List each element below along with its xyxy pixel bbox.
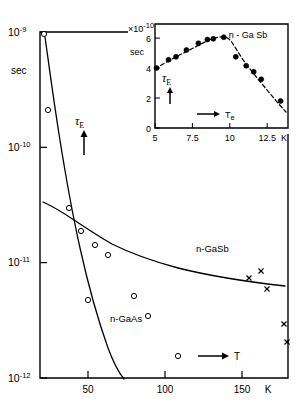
main-tau-subscript: E xyxy=(79,121,84,130)
main-x-tick-labels: 50 100 150 K xyxy=(82,384,271,395)
main-x-axis-title: T xyxy=(234,351,240,362)
data-point-cross xyxy=(265,287,270,292)
inset-y-label-6: 6 xyxy=(146,34,151,44)
data-point-open xyxy=(131,293,136,298)
main-tau-arrow-head xyxy=(81,130,88,137)
inset-y-scale-prefix: ×10 xyxy=(128,24,143,34)
inset-data-point xyxy=(174,54,179,59)
y-label-1e-12-group: 10-12 xyxy=(8,371,31,384)
x-label-50: 50 xyxy=(82,384,94,395)
inset-data-point xyxy=(196,41,201,46)
main-y-tick-labels: 10-9 10-10 10-11 10-12 sec xyxy=(8,25,31,384)
main-x-axis-title-group: T xyxy=(198,351,240,362)
main-tau-e-annotation: τE xyxy=(75,114,88,155)
n-gaas-curve-label: n-GaAs xyxy=(110,313,142,324)
y-label-1e-12-exp: -12 xyxy=(20,371,31,380)
data-point-open xyxy=(92,242,97,247)
inset-x-label-7p5: 7.5 xyxy=(186,133,199,143)
data-point-open xyxy=(145,313,150,318)
x-label-150: 150 xyxy=(234,384,251,395)
inset-y-label-2: 2 xyxy=(146,94,151,104)
figure-container: 10-9 10-10 10-11 10-12 sec 50 100 150 K xyxy=(0,0,305,420)
main-y-ticks xyxy=(40,32,47,378)
inset-data-point xyxy=(184,48,189,53)
inset-data-point xyxy=(166,57,171,62)
y-label-1e-9-group: 10-9 xyxy=(8,25,26,38)
inset-data-point xyxy=(251,69,256,74)
inset-x-label-5: 5 xyxy=(152,133,157,143)
n-gasb-curve-label: n-GaSb xyxy=(196,243,229,254)
inset-data-point xyxy=(154,66,159,71)
inset-data-point xyxy=(221,35,226,40)
n-gaas-curve-path xyxy=(45,37,124,379)
y-label-1e-11-group: 10-11 xyxy=(8,255,30,268)
y-label-1e-11-base: 10 xyxy=(8,256,20,268)
inset-background xyxy=(128,14,293,134)
inset-data-point xyxy=(205,37,210,42)
data-point-cross xyxy=(282,322,287,327)
inset-x-tick-labels: 5 7.5 10 12.5 K xyxy=(152,133,287,143)
data-point-open xyxy=(45,107,50,112)
inset-y-label-4: 4 xyxy=(146,64,151,74)
x-label-100: 100 xyxy=(157,384,174,395)
main-y-axis-title: sec xyxy=(11,65,27,76)
inset-x-axis-unit-kelvin: K xyxy=(281,133,287,143)
y-label-1e-12-base: 10 xyxy=(8,372,20,384)
y-label-1e-11-exp: -11 xyxy=(20,255,30,264)
main-x-ticks xyxy=(88,371,242,378)
data-point-open xyxy=(66,205,71,210)
data-point-open xyxy=(85,297,90,302)
inset-data-point xyxy=(278,99,283,104)
data-point-cross xyxy=(285,340,290,345)
y-label-1e-10-base: 10 xyxy=(8,141,20,153)
relaxation-time-figure: 10-9 10-10 10-11 10-12 sec 50 100 150 K xyxy=(0,0,305,420)
inset-y-scale-exponent: -10 xyxy=(143,21,154,30)
inset-data-point xyxy=(259,77,264,82)
inset-data-point xyxy=(211,36,216,41)
inset-sample-label: n - Ga Sb xyxy=(229,30,268,40)
inset-y-axis-unit: sec xyxy=(130,47,145,57)
inset-data-point xyxy=(233,54,238,59)
inset-y-label-0: 0 xyxy=(146,124,151,134)
data-point-cross xyxy=(247,276,252,281)
data-point-open xyxy=(175,353,180,358)
y-label-1e-10-group: 10-10 xyxy=(8,140,31,153)
data-point-open xyxy=(78,228,83,233)
inset-x-title-sub: e xyxy=(231,113,235,122)
data-point-cross xyxy=(259,269,264,274)
data-point-open xyxy=(105,252,110,257)
inset-x-label-12p5: 12.5 xyxy=(258,133,276,143)
y-label-1e-9-base: 10 xyxy=(8,26,20,38)
y-label-1e-10-exp: -10 xyxy=(20,140,31,149)
main-tau-e-label: τE xyxy=(75,114,84,130)
inset-tau-subscript: E xyxy=(166,78,171,87)
x-title-arrow-head xyxy=(222,352,229,359)
x-axis-unit-kelvin: K xyxy=(265,384,272,395)
inset-x-label-10: 10 xyxy=(225,133,235,143)
y-label-1e-9-exp: -9 xyxy=(20,25,27,34)
n-gasb-data-points xyxy=(247,269,290,345)
data-point-open xyxy=(41,31,46,36)
inset-data-point xyxy=(244,63,249,68)
curve-n-gaas: n-GaAs xyxy=(45,37,142,379)
